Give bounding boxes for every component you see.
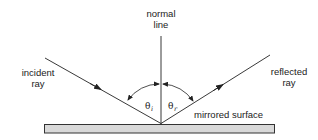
normal-line-label-2: line xyxy=(154,19,169,30)
angle-incidence-arc xyxy=(128,84,159,100)
mirrored-surface-label: mirrored surface xyxy=(194,109,263,120)
normal-line-label-1: normal xyxy=(146,8,175,19)
mirrored-surface xyxy=(45,125,275,134)
reflection-diagram: normal line incident ray reflected ray m… xyxy=(0,0,318,140)
incident-ray-arrow xyxy=(90,83,101,89)
angle-incidence-symbol: θ xyxy=(145,101,150,111)
incident-ray-label-2: ray xyxy=(31,78,44,89)
angle-reflection-arc xyxy=(163,84,193,101)
angle-reflection-symbol: θ xyxy=(168,101,173,111)
reflected-ray-label-1: reflected xyxy=(271,66,307,77)
incident-ray-label-1: incident xyxy=(22,67,55,78)
reflected-ray-label-2: ray xyxy=(282,77,295,88)
reflected-ray-arrow xyxy=(213,85,223,91)
angle-reflection-subscript: r xyxy=(174,105,178,113)
angle-incidence-subscript: i xyxy=(151,105,153,113)
incident-ray xyxy=(45,58,161,124)
